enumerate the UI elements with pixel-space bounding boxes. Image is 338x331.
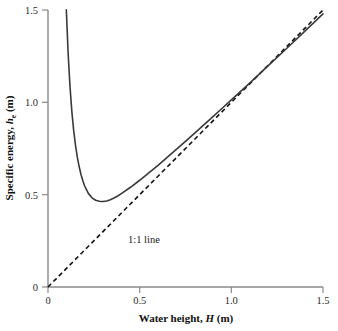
y-tick-label-3: 1.5 <box>25 5 38 16</box>
y-tick-label-2: 1.0 <box>25 97 38 108</box>
x-tick-label-0: 0 <box>45 295 50 306</box>
y-axis-title-suffix: (m) <box>3 95 16 115</box>
x-axis-title-suffix: (m) <box>214 312 234 325</box>
y-axis-title: Specific energy, he (m) <box>3 95 18 200</box>
x-axis-title: Water height, H (m) <box>139 312 234 325</box>
x-axis-title-variable: H <box>204 312 214 324</box>
one-to-one-line <box>48 10 323 287</box>
x-axis-title-prefix: Water height, <box>139 312 206 324</box>
chart-canvas: 0 0.5 1.0 1.5 0 0.5 1.0 1.5 1:1 line Wat… <box>0 0 338 331</box>
one-to-one-line-annotation: 1:1 line <box>128 234 160 245</box>
specific-energy-curve <box>66 10 323 202</box>
specific-energy-chart: 0 0.5 1.0 1.5 0 0.5 1.0 1.5 1:1 line Wat… <box>0 0 338 331</box>
y-axis-ticks <box>42 10 48 287</box>
x-tick-label-2: 1.0 <box>225 295 238 306</box>
x-tick-label-1: 0.5 <box>133 295 146 306</box>
y-tick-label-1: 0.5 <box>25 190 38 201</box>
x-tick-label-3: 1.5 <box>316 295 329 306</box>
x-axis-ticks <box>48 287 323 293</box>
y-axis-title-prefix: Specific energy, <box>3 124 15 200</box>
y-tick-label-0: 0 <box>33 282 38 293</box>
